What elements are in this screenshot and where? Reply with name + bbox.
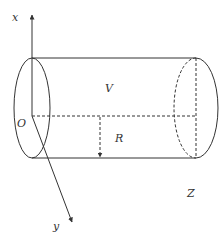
origin-label: O [17,117,26,130]
z-axis-label: Z [186,187,195,200]
volume-label: V [105,82,114,95]
right-end-visible-arc [196,58,218,158]
y-axis [32,116,72,222]
radius-label: R [114,132,123,145]
cylinder-diagram: x O V R Z y [0,0,222,238]
y-axis-label: y [52,220,60,233]
right-end-hidden-arc [174,58,196,158]
x-axis-label: x [12,11,19,24]
